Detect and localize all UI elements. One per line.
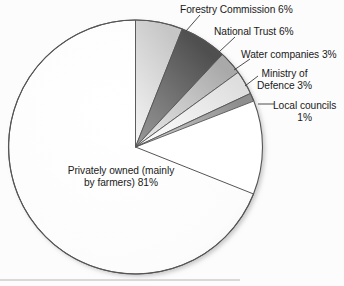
label-water-companies: Water companies 3% — [241, 49, 337, 61]
leader-line-national-trust — [219, 37, 235, 52]
label-national-trust: National Trust 6% — [214, 26, 294, 38]
label-ministry-of-defence: Ministry of Defence 3% — [257, 68, 312, 93]
label-local-line-2: 1% — [273, 112, 336, 124]
pie-chart-figure: Forestry Commission 6% National Trust 6%… — [0, 0, 344, 286]
leader-line-forestry — [186, 15, 200, 31]
footer-divider — [0, 279, 240, 281]
label-local-line-1: Local councils — [273, 100, 336, 112]
label-ministry-line-1: Ministry of — [257, 68, 312, 80]
label-local-councils: Local councils 1% — [273, 100, 336, 125]
label-forestry-commission: Forestry Commission 6% — [180, 4, 293, 16]
label-ministry-line-2: Defence 3% — [257, 80, 312, 92]
label-privately-owned: Privately owned (mainly by farmers) 81% — [36, 165, 206, 190]
pie-chart-svg — [0, 0, 344, 286]
label-private-line-2: by farmers) 81% — [36, 177, 206, 189]
label-private-line-1: Privately owned (mainly — [36, 165, 206, 177]
